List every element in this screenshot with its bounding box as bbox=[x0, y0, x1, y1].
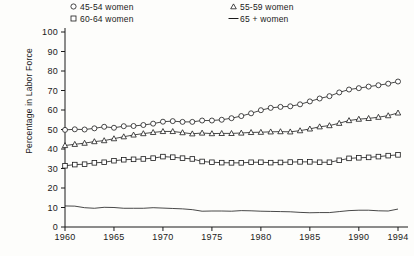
data-point bbox=[357, 155, 362, 160]
data-point bbox=[72, 127, 77, 132]
data-point bbox=[327, 94, 332, 99]
data-point bbox=[141, 123, 146, 128]
data-point bbox=[63, 163, 68, 168]
data-point bbox=[111, 125, 116, 130]
data-point bbox=[366, 155, 371, 160]
data-point bbox=[161, 154, 166, 159]
data-point bbox=[102, 124, 107, 129]
data-point bbox=[337, 158, 342, 163]
data-point bbox=[366, 84, 371, 89]
data-point bbox=[317, 160, 322, 165]
data-point bbox=[327, 160, 332, 165]
data-point bbox=[395, 110, 400, 115]
data-point bbox=[112, 158, 117, 163]
data-point bbox=[337, 90, 342, 95]
data-point bbox=[131, 157, 136, 162]
data-point bbox=[259, 160, 264, 165]
series-line-3 bbox=[65, 206, 398, 213]
data-point bbox=[180, 119, 185, 124]
data-point bbox=[308, 160, 313, 165]
chart-container: 45-54 women 60-64 women 55-59 women 6 bbox=[0, 0, 414, 256]
data-point bbox=[210, 160, 215, 165]
data-point bbox=[170, 119, 175, 124]
data-point bbox=[386, 153, 391, 158]
data-point bbox=[396, 153, 401, 158]
data-point bbox=[200, 159, 205, 164]
data-point bbox=[298, 160, 303, 165]
data-point bbox=[229, 116, 234, 121]
data-point bbox=[347, 87, 352, 92]
data-point bbox=[209, 118, 214, 123]
data-point bbox=[239, 161, 244, 166]
data-point bbox=[288, 104, 293, 109]
data-point bbox=[141, 157, 146, 162]
plot-area bbox=[0, 0, 414, 256]
data-point bbox=[258, 108, 263, 113]
data-point bbox=[121, 124, 126, 129]
data-point bbox=[278, 129, 283, 134]
data-point bbox=[199, 130, 204, 135]
data-point bbox=[356, 86, 361, 91]
data-point bbox=[307, 99, 312, 104]
data-point bbox=[298, 102, 303, 107]
data-point bbox=[229, 161, 234, 166]
data-point bbox=[200, 118, 205, 123]
data-point bbox=[180, 156, 185, 161]
data-point bbox=[317, 96, 322, 101]
data-point bbox=[151, 121, 156, 126]
data-point bbox=[92, 126, 97, 131]
data-point bbox=[347, 156, 352, 161]
data-point bbox=[239, 114, 244, 119]
data-point bbox=[278, 160, 283, 165]
data-point bbox=[386, 81, 391, 86]
data-point bbox=[376, 83, 381, 88]
data-point bbox=[102, 160, 107, 165]
data-point bbox=[376, 154, 381, 159]
data-point bbox=[278, 104, 283, 109]
data-point bbox=[396, 79, 401, 84]
data-point bbox=[72, 162, 77, 167]
data-point bbox=[131, 123, 136, 128]
data-point bbox=[92, 161, 97, 166]
data-point bbox=[219, 131, 224, 136]
data-point bbox=[249, 160, 254, 165]
data-point bbox=[190, 157, 195, 162]
data-point bbox=[268, 160, 273, 165]
data-point bbox=[160, 119, 165, 124]
data-point bbox=[170, 155, 175, 160]
data-point bbox=[288, 160, 293, 165]
data-point bbox=[63, 127, 68, 132]
data-point bbox=[190, 119, 195, 124]
data-point bbox=[219, 117, 224, 122]
data-point bbox=[82, 127, 87, 132]
data-point bbox=[151, 156, 156, 161]
data-point bbox=[219, 160, 224, 165]
data-point bbox=[121, 157, 126, 162]
data-point bbox=[82, 162, 87, 167]
data-point bbox=[268, 105, 273, 110]
data-point bbox=[249, 111, 254, 116]
